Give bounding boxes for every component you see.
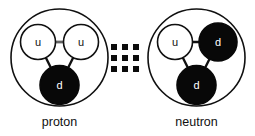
gluon-dot-r1-c2	[122, 44, 128, 50]
gluon-dot-r3-c2	[122, 66, 128, 72]
gluon-dot-r2-c1	[111, 55, 117, 61]
gluon-dot-r2-c2	[122, 55, 128, 61]
neutron-quark-d-bottom-label: d	[193, 79, 199, 91]
neutron-quark-d-right-label: d	[215, 36, 221, 48]
proton-quark-u-right-label: u	[78, 36, 84, 48]
gluon-dot-r3-c3	[133, 66, 139, 72]
neutron-quark-u-label: u	[172, 36, 178, 48]
nucleon-neutron: u d d neutron	[148, 9, 245, 129]
neutron-caption: neutron	[175, 115, 217, 129]
proton-caption: proton	[42, 115, 77, 129]
quark-structure-diagram: u u d proton u d d neutron	[0, 0, 255, 136]
gluon-dot-r3-c1	[111, 66, 117, 72]
gluon-dot-r1-c1	[111, 44, 117, 50]
nucleon-proton: u u d proton	[11, 9, 108, 129]
gluon-exchange-grid	[111, 44, 139, 72]
proton-quark-d-label: d	[56, 79, 62, 91]
gluon-dot-r1-c3	[133, 44, 139, 50]
gluon-dot-r2-c3	[133, 55, 139, 61]
proton-quark-u-left-label: u	[35, 36, 41, 48]
figure-canvas: u u d proton u d d neutron	[0, 0, 255, 136]
